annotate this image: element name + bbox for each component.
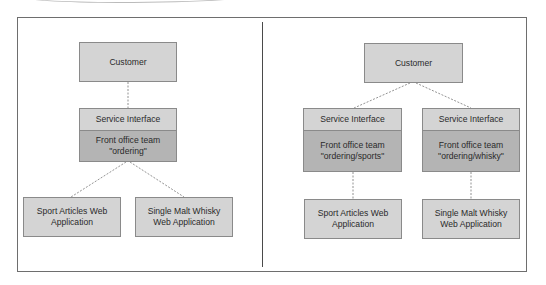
right-whisky-app-box: Single Malt Whisky Web Application: [422, 199, 520, 239]
right-front-office-2-line2: "ordering/whisky": [438, 151, 504, 162]
right-front-office-1-line2: "ordering/sports": [321, 151, 384, 162]
left-service-interface-box: Service Interface: [79, 108, 177, 131]
right-front-office-box-2: Front office team "ordering/whisky": [422, 130, 520, 172]
right-front-office-1-line1: Front office team: [320, 140, 384, 151]
left-whisky-app-box: Single Malt Whisky Web Application: [135, 197, 233, 237]
right-service-interface-label-2: Service Interface: [439, 114, 503, 125]
connector-fo-sport: [71, 162, 126, 197]
right-whisky-app-line2: Web Application: [440, 219, 501, 230]
right-sport-app-line2: Application: [332, 219, 374, 230]
right-service-interface-label-1: Service Interface: [320, 114, 384, 125]
right-front-office-box-1: Front office team "ordering/sports": [303, 130, 402, 172]
right-front-office-2-line1: Front office team: [439, 140, 503, 151]
left-whisky-app-line1: Single Malt Whisky: [148, 206, 221, 217]
left-whisky-app-line2: Web Application: [153, 217, 214, 228]
right-customer-label: Customer: [395, 58, 432, 69]
left-service-interface-label: Service Interface: [96, 114, 160, 125]
left-front-office-box: Front office team "ordering": [79, 130, 177, 162]
left-sport-app-line2: Application: [51, 217, 93, 228]
right-sport-app-box: Sport Articles Web Application: [304, 199, 402, 239]
connector-fo-whisky: [130, 162, 184, 197]
right-sport-app-line1: Sport Articles Web: [318, 208, 389, 219]
left-customer-label: Customer: [109, 57, 146, 68]
right-customer-box: Customer: [364, 43, 463, 83]
left-sport-app-line1: Sport Articles Web: [37, 206, 108, 217]
right-whisky-app-line1: Single Malt Whisky: [435, 208, 508, 219]
right-service-interface-box-2: Service Interface: [422, 108, 520, 131]
right-service-interface-box-1: Service Interface: [303, 108, 402, 131]
left-sport-app-box: Sport Articles Web Application: [23, 197, 121, 237]
connector-customer-si2: [416, 83, 471, 108]
left-customer-box: Customer: [79, 42, 177, 82]
connector-customer-si1: [354, 83, 410, 108]
left-front-office-line1: Front office team: [96, 135, 160, 146]
left-front-office-line2: "ordering": [109, 146, 147, 157]
